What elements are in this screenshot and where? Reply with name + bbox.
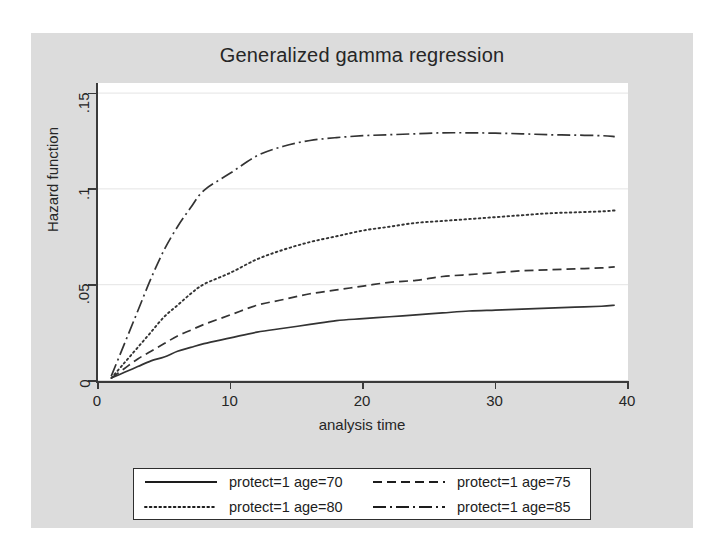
x-tick [97, 381, 99, 389]
y-tick-label: 0 [76, 380, 93, 388]
x-axis-label: analysis time [97, 416, 627, 433]
legend-label: protect=1 age=85 [457, 499, 571, 515]
y-tick-label: .05 [76, 284, 93, 305]
x-tick-label: 20 [342, 392, 382, 409]
legend-item[interactable]: protect=1 age=85 [362, 499, 590, 515]
y-axis-line [96, 83, 98, 381]
plot-area [97, 83, 628, 380]
legend-item[interactable]: protect=1 age=70 [134, 474, 362, 490]
legend-label: protect=1 age=70 [229, 474, 343, 490]
y-tick-label: .1 [76, 188, 93, 201]
legend-label: protect=1 age=80 [229, 499, 343, 515]
legend-item[interactable]: protect=1 age=80 [134, 499, 362, 515]
series-line [111, 210, 615, 378]
x-tick [495, 381, 497, 389]
y-tick-label: .15 [76, 92, 93, 113]
legend-line-swatch [372, 476, 446, 488]
series-group [98, 83, 628, 380]
chart-title: Generalized gamma regression [31, 44, 693, 67]
figure-page: Generalized gamma regression 0.05.1.15 0… [0, 0, 727, 558]
legend-line-swatch [144, 476, 218, 488]
legend-label: protect=1 age=75 [457, 474, 571, 490]
x-tick [627, 381, 629, 389]
legend-item[interactable]: protect=1 age=75 [362, 474, 590, 490]
x-tick-label: 40 [607, 392, 647, 409]
series-line [111, 133, 615, 376]
legend-line-swatch [144, 501, 218, 513]
x-tick [362, 381, 364, 389]
legend-line-swatch [372, 501, 446, 513]
x-tick [230, 381, 232, 389]
x-tick-label: 10 [210, 392, 250, 409]
y-axis-label: Hazard function [44, 127, 61, 232]
legend-box: protect=1 age=70protect=1 age=75protect=… [133, 468, 591, 520]
series-line [111, 305, 615, 378]
plot-canvas [98, 83, 628, 380]
series-line [111, 267, 615, 378]
x-tick-label: 30 [475, 392, 515, 409]
x-tick-label: 0 [77, 392, 117, 409]
